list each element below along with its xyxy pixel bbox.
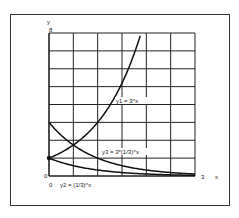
y-axis-label: y xyxy=(47,19,50,25)
y3-label: y3 = 3*(1/3)^x xyxy=(102,149,139,155)
intercept-point xyxy=(47,156,51,160)
x-origin-tick: 0 xyxy=(49,182,53,188)
y-origin-tick: 0 xyxy=(44,173,48,179)
x-axis-label: x xyxy=(215,174,218,180)
y-max-tick: 8 xyxy=(49,27,53,33)
y2-label: y2 = (1/3)^x xyxy=(60,182,91,188)
chart-plot: y 8 0 0 3 x y1 = 3^x y3 = 3*(1/3)^x y2 =… xyxy=(0,0,239,218)
y1-label: y1 = 3^x xyxy=(116,98,138,104)
x-max-tick: 3 xyxy=(201,174,205,180)
